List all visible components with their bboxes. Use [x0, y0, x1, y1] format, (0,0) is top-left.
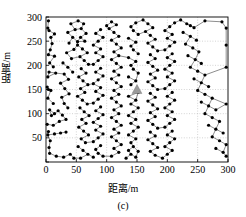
y-tick-label: 200 — [27, 60, 42, 71]
x-tick-label: 50 — [71, 164, 81, 175]
figure-caption: (c) — [0, 200, 246, 211]
y-tick-label: 100 — [27, 108, 42, 119]
x-tick-label: 200 — [160, 164, 175, 175]
y-tick-label: 50 — [32, 132, 42, 143]
x-tick-label: 300 — [221, 164, 236, 175]
x-tick-label: 0 — [44, 164, 49, 175]
y-tick-label: 150 — [27, 84, 42, 95]
y-tick-label: 300 — [27, 12, 42, 23]
x-tick-label: 150 — [130, 164, 145, 175]
y-axis-label: 距离/m — [2, 52, 14, 83]
x-axis-label: 距离/m — [0, 184, 246, 194]
x-tick-label: 250 — [190, 164, 205, 175]
figure-panel: 05010015020025030050100150200250300 距离/m… — [0, 0, 246, 217]
x-tick-label: 100 — [99, 164, 114, 175]
y-tick-label: 250 — [27, 36, 42, 47]
